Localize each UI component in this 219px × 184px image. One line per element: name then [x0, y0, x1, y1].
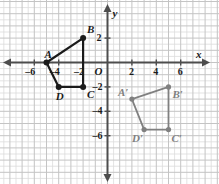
vertex-label: C′	[172, 133, 182, 144]
y-tick-label: 2	[97, 33, 102, 43]
x-tick-label: 4	[153, 67, 158, 77]
coordinate-plane-figure: ABCDA′B′C′D′–6–4–22462–2–4–6 x y O	[0, 0, 219, 184]
vertex-dot	[129, 97, 134, 102]
vertex-dot	[80, 35, 86, 41]
x-tick-label: –2	[74, 67, 84, 77]
y-tick-label: –2	[93, 82, 103, 92]
grid-major-lines	[0, 0, 219, 184]
x-axis-label: x	[196, 49, 202, 60]
vertex-label: B′	[173, 89, 183, 100]
vertex-dot	[166, 127, 171, 132]
y-axis-label: y	[113, 8, 118, 19]
origin-label: O	[95, 66, 103, 77]
grid-minor-lines	[0, 0, 219, 184]
vertex-dot	[166, 84, 171, 89]
x-tick-label: 2	[129, 67, 134, 77]
vertex-label: D	[56, 91, 64, 102]
vertex-label: A′	[118, 87, 128, 98]
vertex-label: A	[45, 49, 52, 60]
vertex-dot	[44, 60, 50, 66]
y-tick-label: –6	[93, 131, 103, 141]
coordinate-plane-canvas	[0, 0, 219, 184]
vertex-label: D′	[132, 133, 143, 144]
x-tick-label: –6	[25, 67, 35, 77]
vertex-label: B	[87, 24, 94, 35]
y-tick-label: –4	[93, 106, 103, 116]
x-tick-label: –4	[50, 67, 60, 77]
vertex-dot	[56, 84, 62, 90]
x-tick-label: 6	[178, 67, 183, 77]
vertex-dot	[80, 84, 86, 90]
